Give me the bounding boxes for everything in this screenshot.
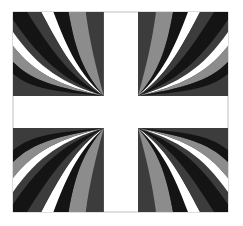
quadrant-top-left <box>13 12 104 96</box>
cross-stripes-artwork <box>0 0 243 226</box>
quadrant-top-right <box>138 12 228 96</box>
quadrant-bottom-left <box>13 128 104 212</box>
quadrant-bottom-right <box>138 128 228 212</box>
